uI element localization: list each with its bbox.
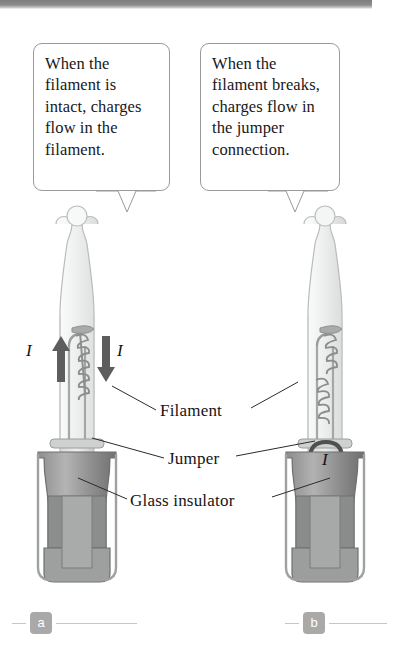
current-label-jumper: I <box>322 450 328 470</box>
current-label-left: I <box>26 341 32 361</box>
panel-label-a: a <box>12 612 137 634</box>
panel-rule-left <box>285 623 299 624</box>
panel-rule-right <box>329 623 387 624</box>
current-arrow-down <box>97 336 115 382</box>
callout-box-a: When the filament is intact, charges flo… <box>33 43 170 191</box>
callout-a-text: When the filament is intact, charges flo… <box>45 53 159 160</box>
panel-badge-a: a <box>30 612 52 634</box>
callout-box-b: When the filament breaks, charges flow i… <box>200 43 340 191</box>
page-edge-band <box>0 0 395 9</box>
panel-rule-left <box>12 623 26 624</box>
label-jumper: Jumper <box>168 449 219 469</box>
panel-label-b: b <box>285 612 387 634</box>
label-glass-insulator: Glass insulator <box>130 491 235 511</box>
label-filament: Filament <box>160 401 222 421</box>
callout-b-text: When the filament breaks, charges flow i… <box>212 53 329 160</box>
panel-rule-right <box>56 623 137 624</box>
current-label-right: I <box>117 341 123 361</box>
panel-badge-b: b <box>303 612 325 634</box>
figure-panel: When the filament is intact, charges flo… <box>0 0 395 648</box>
bulb-diagram-intact <box>10 196 150 596</box>
bulb-diagram-broken <box>258 196 395 596</box>
